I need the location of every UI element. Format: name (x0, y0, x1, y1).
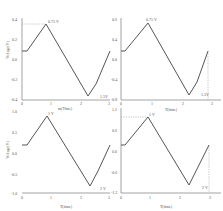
chart-title: m(Time) (58, 106, 73, 111)
y-axis-label: Voltage(V) (5, 40, 10, 58)
y-tick: 0.0 (12, 151, 17, 156)
voltage-curve (121, 117, 209, 185)
chart-plot-top-left: 0.4 0.2 0.0 -0.2 -0.4 0 1 2 3 Voltage(V)… (0, 0, 111, 105)
y-tick: 0.0 (12, 57, 17, 62)
x-tick: 1 (149, 195, 151, 200)
y-tick: 0.4 (12, 17, 17, 22)
peak-annotation: 0.75 V (48, 19, 59, 24)
min-annotation: 2 V (100, 186, 106, 191)
chart-title: T(time) (165, 107, 178, 112)
y-tick: 0.6 (112, 17, 117, 22)
y-tick: 1.2 (112, 107, 117, 112)
voltage-curve (22, 24, 110, 96)
chart-panel-bottom-right: T(time) 1.2 0.6 0.0 -0.6 -1.2 0 1 2 3 T(… (111, 105, 222, 211)
y-tick: -0.2 (11, 77, 17, 82)
y-tick: 0.0 (112, 149, 117, 154)
chart-plot-bottom-right: T(time) 1.2 0.6 0.0 -0.6 -1.2 0 1 2 3 T(… (111, 105, 223, 211)
x-tick: 3 (209, 195, 211, 200)
peak-annotation: 1 V (48, 111, 54, 116)
chart-panel-top-right: 0.6 0.4 0.0 -0.4 -0.8 0 1 2 3 Volt (V) 0… (111, 0, 222, 105)
y-tick: 0.6 (112, 128, 117, 133)
voltage-curve (121, 23, 208, 95)
y-tick: -0.5 (11, 172, 17, 177)
x-tick: 0 (21, 195, 23, 200)
x-tick: 2 (80, 195, 82, 200)
y-tick: -0.4 (111, 77, 117, 82)
y-tick: 0.4 (112, 37, 117, 42)
y-tick: -1.2 (111, 190, 117, 195)
x-tick: 1 (50, 195, 52, 200)
min-annotation: 2 V (202, 185, 208, 190)
y-tick: 0.2 (12, 37, 17, 42)
x-tick: 2 (179, 195, 181, 200)
y-axis-label: Voltage(V) (5, 140, 10, 158)
y-tick: -0.6 (111, 170, 117, 175)
y-tick: 0.5 (12, 130, 17, 135)
y-tick: 1.0 (12, 109, 17, 114)
chart-plot-top-right: 0.6 0.4 0.0 -0.4 -0.8 0 1 2 3 Volt (V) 0… (111, 0, 223, 105)
min-annotation: 1.5V (201, 92, 209, 97)
peak-annotation: 1 V (149, 112, 155, 117)
x-axis-label: T(time) (160, 204, 173, 209)
y-tick: 0.0 (112, 57, 117, 62)
chart-plot-bottom-left: m(Time) 1.0 0.5 0.0 -0.5 -1.0 0 1 2 3 T(… (0, 105, 111, 211)
y-tick: -0.8 (111, 97, 117, 102)
voltage-curve (22, 116, 110, 186)
x-axis-label: T(time) (60, 204, 73, 209)
x-tick: 0 (120, 195, 122, 200)
y-tick: -0.4 (11, 97, 17, 102)
chart-panel-top-left: 0.4 0.2 0.0 -0.2 -0.4 0 1 2 3 Voltage(V)… (0, 0, 111, 105)
peak-annotation: 0.75 V (146, 17, 157, 22)
y-tick: -1.0 (11, 191, 17, 196)
chart-panel-bottom-left: m(Time) 1.0 0.5 0.0 -0.5 -1.0 0 1 2 3 T(… (0, 105, 111, 211)
min-annotation: 1.5V (100, 94, 108, 99)
x-tick: 3 (108, 195, 110, 200)
